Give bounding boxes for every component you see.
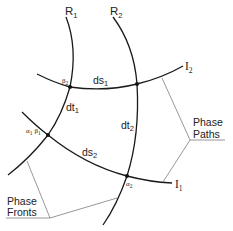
point-alpha2-label: α2 bbox=[126, 180, 133, 189]
ray-r2-label: R2 bbox=[110, 5, 122, 20]
phase-paths-label-line1: Phase bbox=[193, 116, 223, 128]
ray-r1-curve bbox=[8, 17, 73, 175]
phase-fronts-leader bbox=[27, 161, 117, 218]
point-top-right-dot bbox=[135, 82, 139, 86]
point-beta2-label: β2 bbox=[62, 77, 69, 86]
point-alpha2-dot bbox=[125, 174, 129, 178]
segment-dt1-label: dt1 bbox=[66, 101, 79, 115]
front-i2-label: I2 bbox=[185, 60, 193, 75]
point-alpha1-beta1-dot bbox=[46, 133, 50, 137]
front-i1-curve bbox=[22, 112, 172, 183]
phase-diagram: R1 R2 I2 I1 ds1 dt1 ds2 dt2 β2 α1β1 α2 P… bbox=[0, 0, 233, 231]
segment-ds1-label: ds1 bbox=[93, 74, 108, 88]
segment-ds2-label: ds2 bbox=[82, 146, 97, 160]
point-beta2-dot bbox=[68, 85, 72, 89]
segment-dt2-label: dt2 bbox=[121, 119, 134, 133]
phase-paths-leader bbox=[162, 78, 190, 182]
phase-paths-label-line2: Paths bbox=[193, 128, 220, 140]
front-i1-label: I1 bbox=[175, 178, 183, 193]
phase-fronts-label-line2: Fronts bbox=[7, 206, 37, 218]
front-i2-curve bbox=[37, 66, 183, 89]
